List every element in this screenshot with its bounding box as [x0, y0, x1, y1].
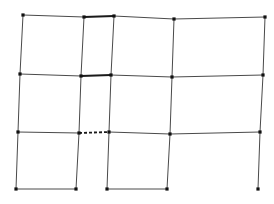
node-r2c4 [258, 130, 261, 133]
edge-layer [16, 15, 265, 189]
node-r3c1 [74, 187, 77, 190]
edge-solid-r0c0-r0c1 [23, 15, 84, 17]
edge-solid-r1c1-r2c1 [79, 76, 81, 133]
edge-thick-r1c1-r1c2 [81, 75, 111, 76]
node-r1c1 [79, 74, 82, 77]
edge-solid-r1c2-r2c2 [109, 75, 111, 132]
node-r0c4 [263, 15, 266, 18]
node-r3c4 [256, 187, 259, 190]
edge-solid-r0c3-r1c3 [172, 19, 174, 77]
node-r1c2 [109, 73, 112, 76]
node-r0c2 [112, 14, 115, 17]
edge-solid-r1c2-r1c3 [111, 75, 172, 77]
node-r1c3 [170, 75, 173, 78]
edge-solid-r2c0-r3c0 [16, 132, 18, 189]
node-r2c0 [16, 130, 19, 133]
node-r2c2 [107, 130, 110, 133]
node-r1c0 [18, 72, 21, 75]
edge-solid-r2c2-r2c3 [109, 132, 170, 134]
edge-solid-r0c2-r1c2 [111, 16, 114, 75]
node-layer [14, 13, 266, 190]
grid-graph-diagram [0, 0, 274, 204]
node-r2c1 [77, 131, 80, 134]
edge-solid-r0c2-r0c3 [114, 16, 174, 19]
edge-solid-r2c3-r2c4 [170, 132, 260, 134]
node-r3c2 [105, 187, 108, 190]
node-r3c3 [165, 187, 168, 190]
edge-solid-r0c4-r1c4 [263, 17, 265, 75]
edge-solid-r2c1-r3c1 [76, 133, 79, 189]
node-r1c4 [261, 73, 264, 76]
node-r0c1 [82, 15, 85, 18]
edge-solid-r0c0-r1c0 [20, 15, 23, 74]
edge-solid-r0c1-r1c1 [81, 17, 84, 76]
edge-solid-r1c4-r2c4 [260, 75, 263, 132]
edge-thick-r0c1-r0c2 [84, 16, 114, 17]
node-r2c3 [168, 132, 171, 135]
edge-solid-r2c3-r3c3 [167, 134, 170, 189]
node-r0c3 [172, 17, 175, 20]
edge-solid-r1c0-r2c0 [18, 74, 20, 132]
edge-solid-r0c3-r0c4 [174, 17, 265, 19]
edge-dashed-r2c1-r2c2 [79, 132, 109, 133]
edge-solid-r2c0-r2c1 [18, 132, 79, 133]
edge-solid-r2c2-r3c2 [107, 132, 109, 189]
edge-solid-r1c0-r1c1 [20, 74, 81, 76]
node-r0c0 [21, 13, 24, 16]
edge-solid-r1c3-r2c3 [170, 77, 172, 134]
edge-solid-r1c3-r1c4 [172, 75, 263, 77]
edge-solid-r2c4-r3c4 [258, 132, 260, 189]
node-r3c0 [14, 187, 17, 190]
